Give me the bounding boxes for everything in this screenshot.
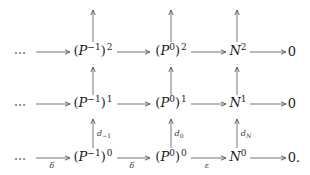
row1-leading-dots: ⋯: [14, 98, 27, 112]
row2-leading-dots: ⋯: [14, 46, 27, 60]
label-epsilon: ε: [205, 161, 209, 170]
node-p-minus1-2: (P−1)2: [74, 44, 113, 58]
label-delta-2: δ: [130, 161, 135, 170]
node-p0-2: (P0)2: [155, 44, 186, 58]
commutative-diagram: ⋯ (P−1)2 (P0)2 N2 0 ⋯ (P−1)1 (P0)1 N1 0 …: [0, 0, 310, 175]
node-zero-1: 0: [288, 97, 296, 111]
label-delta-1: δ: [50, 161, 55, 170]
node-n-0: N0: [229, 150, 246, 164]
label-d-minus1: d−1: [97, 129, 111, 138]
label-d0: d0: [175, 129, 184, 138]
node-n-1: N1: [229, 96, 246, 110]
node-p-minus1-0: (P−1)0: [74, 150, 113, 164]
label-dN: dN: [241, 129, 251, 138]
row0-leading-dots: ⋯: [14, 152, 27, 166]
node-zero-2: 0: [288, 45, 296, 59]
node-n-2: N2: [229, 44, 246, 58]
node-zero-0: 0.: [288, 151, 300, 165]
node-p-minus1-1: (P−1)1: [74, 96, 113, 110]
node-p0-1: (P0)1: [155, 96, 186, 110]
node-p0-0: (P0)0: [155, 150, 186, 164]
